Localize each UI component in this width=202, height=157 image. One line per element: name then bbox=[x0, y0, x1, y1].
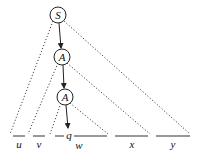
a2-subtree-left-boundary bbox=[50, 103, 61, 134]
node-s: S bbox=[50, 7, 66, 23]
edge-a-to-q bbox=[66, 105, 68, 128]
a2-subtree-right-boundary bbox=[70, 103, 108, 134]
node-a-lower-label: A bbox=[61, 91, 69, 103]
parse-tree-diagram: S A A q u v w x y bbox=[0, 0, 202, 157]
a1-subtree-right-boundary bbox=[67, 63, 150, 134]
terminal-q: q bbox=[66, 129, 72, 141]
edge-a-to-a bbox=[63, 65, 64, 88]
label-v: v bbox=[37, 138, 42, 150]
node-a-upper-label: A bbox=[58, 51, 66, 63]
label-y: y bbox=[170, 138, 176, 150]
label-w: w bbox=[75, 139, 83, 151]
node-a-lower: A bbox=[57, 89, 73, 105]
a1-subtree-left-boundary bbox=[28, 63, 58, 134]
edge-s-to-a bbox=[59, 23, 61, 48]
node-a-upper: A bbox=[54, 49, 70, 65]
s-subtree-right-boundary bbox=[64, 21, 190, 134]
label-x: x bbox=[129, 138, 135, 150]
node-s-label: S bbox=[55, 9, 61, 21]
s-subtree-left-boundary bbox=[10, 21, 53, 134]
label-u: u bbox=[16, 138, 22, 150]
